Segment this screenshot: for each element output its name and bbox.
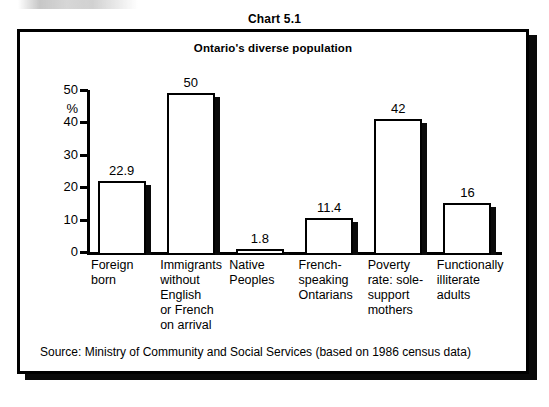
- bar: [374, 119, 422, 255]
- category-label-line: Functionally: [437, 258, 520, 273]
- category-label-line: or French: [160, 303, 243, 318]
- y-axis-tick: [80, 251, 88, 254]
- bar: [305, 218, 353, 255]
- page-edge-artifact: [18, 0, 138, 9]
- bar-value-label: 22.9: [109, 164, 134, 177]
- bar: [443, 203, 491, 255]
- y-axis-tick: [80, 121, 88, 124]
- y-axis-tick: [80, 89, 88, 92]
- category-label-line: English: [160, 288, 243, 303]
- chart-title: Ontario's diverse population: [20, 42, 526, 54]
- bar-group: 42: [374, 76, 422, 255]
- bar-value-label: 11.4: [317, 201, 341, 214]
- bar-value-label: 42: [391, 102, 405, 115]
- bar-group: 16: [443, 76, 491, 255]
- category-label-line: mothers: [368, 303, 451, 318]
- category-label-line: adults: [437, 288, 520, 303]
- chart-number-caption: Chart 5.1: [0, 12, 549, 26]
- category-label-line: on arrival: [160, 318, 243, 333]
- y-axis-tick-label: 10: [44, 213, 78, 226]
- bar: [236, 249, 284, 255]
- bar-group: 1.8: [236, 76, 284, 255]
- bar-group: 22.9: [98, 76, 146, 255]
- y-axis-tick: [80, 186, 88, 189]
- category-label: Functionallyilliterateadults: [437, 258, 520, 303]
- bar: [98, 181, 146, 255]
- y-axis-tick-label: 40: [44, 115, 78, 128]
- bar-value-label: 50: [184, 76, 198, 89]
- y-axis-unit-label: %: [44, 102, 78, 115]
- y-axis-tick: [80, 219, 88, 222]
- bar-group: 11.4: [305, 76, 353, 255]
- bar-group: 50: [167, 76, 215, 255]
- y-axis-tick: [80, 154, 88, 157]
- category-label-line: illiterate: [437, 273, 520, 288]
- bar-value-label: 16: [460, 186, 474, 199]
- bar: [167, 93, 215, 255]
- x-axis-category-labels: ForeignbornImmigrantswithoutEnglishor Fr…: [44, 258, 506, 353]
- y-axis-tick-label: 20: [44, 180, 78, 193]
- y-axis-tick-label: 0: [44, 245, 78, 258]
- bar-value-label: 1.8: [251, 232, 269, 245]
- y-axis-tick-label: 50: [44, 83, 78, 96]
- chart-figure-frame: Ontario's diverse population 01020304050…: [17, 29, 529, 374]
- bars-layer: 22.9501.811.44216: [87, 76, 502, 255]
- source-note: Source: Ministry of Community and Social…: [40, 345, 471, 359]
- y-axis-tick-label: 30: [44, 148, 78, 161]
